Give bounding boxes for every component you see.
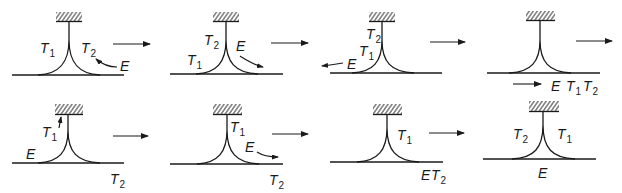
label-e: E: [421, 168, 430, 182]
label-t1: T1: [397, 128, 412, 146]
label-e: E: [347, 57, 356, 71]
label-e: E: [245, 140, 254, 154]
label-t2: T2: [366, 27, 381, 45]
label-e: E: [26, 147, 35, 161]
panel-3: [322, 12, 442, 73]
motion-arrow-right: [240, 56, 263, 67]
ceiling-support-hatch: [56, 12, 82, 21]
motion-arrow-up: [59, 117, 61, 128]
label-t2: T2: [431, 168, 446, 186]
label-t2: T2: [204, 33, 219, 51]
label-t2: T2: [583, 79, 598, 97]
motion-arrow-left: [96, 59, 117, 67]
label-e: E: [538, 166, 547, 180]
label-e: E: [236, 39, 245, 53]
label-t2: T2: [110, 172, 125, 190]
label-e: E: [120, 59, 129, 73]
label-t1: T1: [42, 125, 57, 143]
label-t1: T1: [566, 79, 581, 97]
label-t2: T2: [81, 41, 96, 59]
label-t1: T1: [359, 44, 374, 62]
label-e: E: [551, 79, 560, 93]
motion-arrow-left: [322, 63, 343, 66]
panel-1: [12, 12, 124, 75]
label-t2: T2: [513, 127, 528, 145]
panel-7: [330, 104, 443, 162]
label-t2: T2: [269, 173, 284, 191]
motion-arrow-right: [257, 152, 278, 157]
label-t1: T1: [230, 120, 245, 138]
label-t1: T1: [187, 53, 202, 71]
panel-4: [487, 11, 600, 84]
label-t1: T1: [40, 41, 55, 59]
panel-6: [170, 104, 283, 164]
mechanism-sequence-diagram: [0, 0, 622, 193]
label-t1: T1: [557, 127, 572, 145]
panel-8: [483, 101, 596, 159]
